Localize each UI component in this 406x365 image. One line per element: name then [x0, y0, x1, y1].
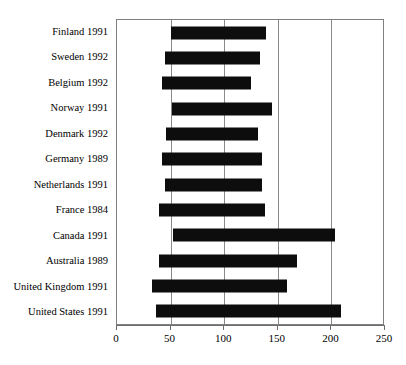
plot-area — [116, 19, 384, 325]
bar-row — [117, 172, 383, 197]
bar — [171, 26, 266, 39]
bar — [166, 127, 258, 140]
y-axis-label: United Kingdom 1991 — [0, 274, 113, 300]
x-axis-tick-label: 0 — [96, 332, 136, 345]
bar-row — [117, 121, 383, 146]
x-axis-tick-label: 150 — [257, 332, 297, 345]
plot-inner — [117, 20, 383, 324]
y-axis-label: France 1984 — [0, 198, 113, 224]
y-axis-label: Denmark 1992 — [0, 121, 113, 147]
x-axis-tick — [116, 325, 117, 330]
bar-row — [117, 299, 383, 324]
gridline — [383, 20, 384, 324]
bar — [159, 203, 265, 216]
bar — [159, 254, 297, 267]
y-axis-label: Canada 1991 — [0, 223, 113, 249]
bar-row — [117, 45, 383, 70]
bar-row — [117, 197, 383, 222]
x-axis-tick — [223, 325, 224, 330]
bar — [165, 51, 259, 64]
bar-row — [117, 273, 383, 298]
bar — [156, 305, 341, 318]
y-axis-category-labels: Finland 1991Sweden 1992Belgium 1992Norwa… — [0, 19, 113, 325]
bar-row — [117, 147, 383, 172]
y-axis-label: Finland 1991 — [0, 19, 113, 45]
bar-row — [117, 96, 383, 121]
bar — [173, 229, 335, 242]
bar — [165, 178, 261, 191]
chart-title — [0, 0, 406, 4]
x-axis-tick — [330, 325, 331, 330]
y-axis-label: Belgium 1992 — [0, 70, 113, 96]
bar-row — [117, 223, 383, 248]
bars-group — [117, 20, 383, 324]
x-axis-tick — [170, 325, 171, 330]
x-axis-tick — [277, 325, 278, 330]
bar — [162, 153, 262, 166]
x-axis-line — [116, 325, 384, 326]
bar — [152, 279, 287, 292]
range-bar-chart: Finland 1991Sweden 1992Belgium 1992Norwa… — [0, 0, 406, 365]
y-axis-label: Sweden 1992 — [0, 45, 113, 71]
y-axis-label: Netherlands 1991 — [0, 172, 113, 198]
y-axis-label: Norway 1991 — [0, 96, 113, 122]
y-axis-label: Germany 1989 — [0, 147, 113, 173]
y-axis-label: United States 1991 — [0, 300, 113, 326]
bar-row — [117, 20, 383, 45]
bar-row — [117, 248, 383, 273]
x-axis-tick-label: 100 — [203, 332, 243, 345]
x-axis-tick-label: 50 — [150, 332, 190, 345]
bar — [162, 77, 251, 90]
bar — [172, 102, 273, 115]
x-axis-tick — [384, 325, 385, 330]
x-axis-tick-label: 200 — [310, 332, 350, 345]
x-axis-tick-label: 250 — [364, 332, 404, 345]
y-axis-label: Australia 1989 — [0, 249, 113, 275]
bar-row — [117, 71, 383, 96]
